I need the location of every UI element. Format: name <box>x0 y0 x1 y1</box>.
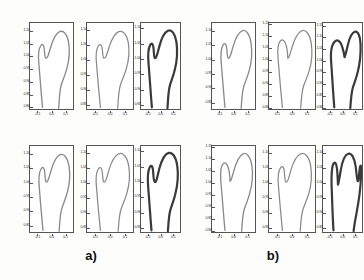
y-tick-label: 0.85 <box>316 227 323 231</box>
y-tick-mark <box>269 198 272 199</box>
y-tick-mark <box>212 159 215 160</box>
x-tick-mark <box>52 111 53 114</box>
y-tick-label: 0.95 <box>316 71 323 75</box>
y-tick-label: 0.90 <box>262 82 269 86</box>
y-tick-mark <box>141 197 144 198</box>
y-tick-mark <box>87 60 90 61</box>
y-axis-labels: 0.850.900.951.001.051.10 <box>14 145 30 233</box>
y-tick-label: 0.85 <box>134 104 141 108</box>
x-tick-label: 0.0 <box>108 113 113 117</box>
x-tick-mark <box>330 111 331 114</box>
x-tick-mark <box>248 111 249 114</box>
y-tick-label: 0.90 <box>23 210 30 214</box>
y-tick-label: 1.10 <box>134 149 141 153</box>
x-tick-label: 0.0 <box>158 236 163 240</box>
y-tick-label: 1.10 <box>205 157 212 161</box>
y-axis-labels: 0.800.850.900.951.001.051.101.15 <box>196 145 212 233</box>
y-tick-mark <box>30 82 33 83</box>
y-tick-mark <box>323 96 326 97</box>
y-tick-mark <box>323 153 326 154</box>
y-tick-label: 0.95 <box>80 73 87 77</box>
y-tick-label: 0.95 <box>205 72 212 76</box>
y-tick-mark <box>141 228 144 229</box>
x-tick-label: 0.0 <box>290 113 295 117</box>
x-tick-mark <box>37 111 38 114</box>
y-tick-label: 0.90 <box>80 211 87 215</box>
y-tick-mark <box>323 84 326 85</box>
x-tick-label: 0.0 <box>158 113 163 117</box>
x-tick-mark <box>292 234 293 237</box>
x-tick-label: -0.1 <box>92 113 98 117</box>
y-tick-label: 0.95 <box>262 196 269 200</box>
x-tick-mark <box>219 111 220 114</box>
y-tick-label: 0.85 <box>262 227 269 231</box>
x-tick-mark <box>173 111 174 114</box>
x-axis-labels: -0.10.00.1 <box>268 113 316 123</box>
y-tick-label: 0.95 <box>80 196 87 200</box>
y-tick-label: 1.05 <box>262 46 269 50</box>
y-tick-label: 1.00 <box>316 181 323 185</box>
x-tick-label: 0.1 <box>123 236 128 240</box>
y-tick-mark <box>212 147 215 148</box>
y-tick-mark <box>269 183 272 184</box>
y-tick-mark <box>30 107 33 108</box>
contour-path <box>221 30 252 108</box>
x-tick-mark <box>234 234 235 237</box>
y-tick-label: 1.00 <box>134 180 141 184</box>
y-tick-label: 1.15 <box>205 146 212 150</box>
figure-group-a: 0.800.850.900.951.001.051.10-0.10.00.10.… <box>0 0 182 280</box>
y-tick-label: 0.95 <box>316 196 323 200</box>
plot-panel-b-r1-c3: 0.800.850.900.951.001.051.101.15-0.10.00… <box>322 22 363 110</box>
x-tick-mark <box>343 111 344 114</box>
y-tick-label: 1.05 <box>316 166 323 170</box>
y-tick-mark <box>87 183 90 184</box>
x-tick-label: -0.1 <box>92 236 98 240</box>
y-axis-labels: 0.850.900.951.001.051.10 <box>125 145 141 233</box>
y-tick-label: 0.85 <box>23 93 30 97</box>
x-tick-label: 0.1 <box>63 236 68 240</box>
y-tick-mark <box>87 198 90 199</box>
y-tick-label: 1.05 <box>23 42 30 46</box>
y-tick-mark <box>269 228 272 229</box>
contour-path <box>39 154 70 231</box>
y-tick-mark <box>87 90 90 91</box>
plot-panel-b-r1-c1: 0.850.900.951.001.051.10-0.10.00.1 <box>211 22 256 110</box>
x-tick-mark <box>173 234 174 237</box>
x-tick-label: -0.1 <box>274 113 280 117</box>
y-tick-mark <box>87 105 90 106</box>
y-tick-label: 0.90 <box>23 80 30 84</box>
y-tick-label: 0.95 <box>262 70 269 74</box>
y-tick-mark <box>141 167 144 168</box>
panel-grid-b: 0.850.900.951.001.051.10-0.10.00.10.800.… <box>182 0 364 250</box>
y-axis-labels: 0.800.850.900.951.001.051.101.15 <box>307 22 323 110</box>
y-tick-label: 0.90 <box>134 88 141 92</box>
x-tick-mark <box>161 111 162 114</box>
y-tick-label: 0.90 <box>205 87 212 91</box>
x-tick-label: 0.0 <box>231 236 236 240</box>
x-tick-mark <box>292 111 293 114</box>
y-tick-label: 1.00 <box>262 58 269 62</box>
x-tick-label: -0.1 <box>327 113 333 117</box>
y-tick-label: 0.80 <box>205 229 212 233</box>
y-tick-mark <box>269 84 272 85</box>
x-tick-label: -0.1 <box>35 236 41 240</box>
contour-path <box>331 154 361 232</box>
y-tick-mark <box>212 74 215 75</box>
x-axis-labels: -0.10.00.1 <box>322 236 363 246</box>
femur-contour <box>29 22 74 110</box>
x-tick-mark <box>66 234 67 237</box>
y-tick-label: 1.05 <box>80 166 87 170</box>
y-tick-mark <box>30 31 33 32</box>
y-tick-mark <box>212 60 215 61</box>
y-tick-label: 1.10 <box>23 152 30 156</box>
x-tick-mark <box>355 234 356 237</box>
x-tick-mark <box>148 111 149 114</box>
y-tick-label: 0.95 <box>205 193 212 197</box>
y-tick-label: 0.85 <box>80 104 87 108</box>
y-tick-label: 1.15 <box>262 23 269 27</box>
femur-contour <box>322 145 363 233</box>
y-tick-mark <box>141 213 144 214</box>
y-tick-label: 0.85 <box>316 94 323 98</box>
x-tick-label: 0.1 <box>245 236 250 240</box>
x-tick-mark <box>330 234 331 237</box>
